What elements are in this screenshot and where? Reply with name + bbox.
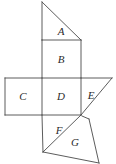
quad-g-top-edge bbox=[82, 116, 89, 119]
face-label-a: A bbox=[57, 25, 65, 37]
face-label-f: F bbox=[55, 124, 63, 136]
face-label-c: C bbox=[19, 90, 27, 102]
face-label-d: D bbox=[56, 90, 65, 102]
net-label-layer: ABCDEFG bbox=[19, 25, 94, 148]
geometry-net-figure: ABCDEFG bbox=[0, 0, 116, 164]
quad-g-right-edge bbox=[89, 119, 99, 163]
quad-g-bottom-edge bbox=[43, 152, 99, 163]
face-label-b: B bbox=[58, 53, 65, 65]
face-label-e: E bbox=[87, 89, 95, 101]
face-label-g: G bbox=[71, 136, 79, 148]
triangle-f-left-edge bbox=[42, 115, 43, 152]
triangle-e-hypotenuse bbox=[81, 78, 112, 115]
net-diagram-svg: ABCDEFG bbox=[0, 0, 116, 164]
